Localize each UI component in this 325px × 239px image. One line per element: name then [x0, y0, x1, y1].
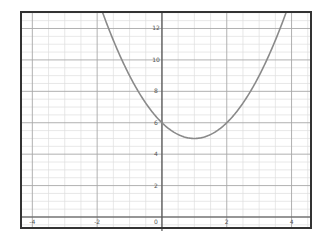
- y-tick-label: 2: [154, 182, 158, 189]
- y-tick-label: 8: [154, 87, 158, 94]
- x-tick-label: -2: [94, 218, 100, 225]
- y-tick-label: 10: [152, 56, 160, 63]
- x-tick-label: 4: [290, 218, 294, 225]
- x-tick-label: 0: [154, 218, 158, 225]
- y-tick-label: 12: [152, 24, 160, 31]
- minor-grid: [21, 12, 311, 228]
- function-plot: -4-202424681012: [0, 0, 325, 239]
- y-tick-label: 6: [154, 119, 158, 126]
- x-tick-label: -4: [29, 218, 35, 225]
- y-tick-label: 4: [154, 150, 158, 157]
- x-tick-label: 2: [225, 218, 229, 225]
